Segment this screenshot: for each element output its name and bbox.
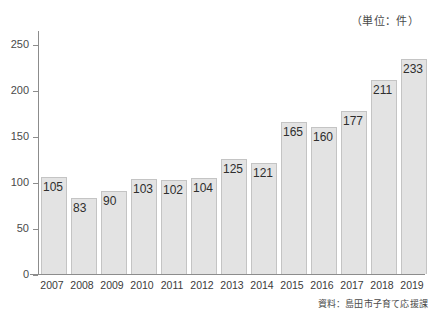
y-tick-label: 250 <box>11 38 29 51</box>
bar-chart-figure: （単位：件） 050100150200250 10583901031021041… <box>0 0 435 316</box>
bar-column: 233 <box>401 30 427 274</box>
bar-value-label: 90 <box>103 195 116 208</box>
bars-layer: 1058390103102104125121165160177211233 <box>38 31 428 275</box>
x-tick-label: 2011 <box>157 278 187 292</box>
bar <box>281 122 307 274</box>
x-tick-label: 2015 <box>277 278 307 292</box>
x-tick-label: 2012 <box>187 278 217 292</box>
bar-value-label: 103 <box>133 183 153 196</box>
y-tick-label: 50 <box>17 222 29 235</box>
x-tick-label: 2018 <box>367 278 397 292</box>
plot-area: 050100150200250 105839010310210412512116… <box>38 31 428 275</box>
bar-column: 160 <box>311 30 337 274</box>
bar-value-label: 160 <box>313 131 333 144</box>
bar-value-label: 102 <box>163 184 183 197</box>
unit-note: （単位：件） <box>351 12 419 28</box>
bar-column: 102 <box>161 30 187 274</box>
x-tick-label: 2013 <box>217 278 247 292</box>
x-tick-label: 2016 <box>307 278 337 292</box>
bar-value-label: 125 <box>223 163 243 176</box>
x-tick-label: 2007 <box>37 278 67 292</box>
y-tick-label: 100 <box>11 176 29 189</box>
y-tick-label: 0 <box>23 268 29 281</box>
x-tick-label: 2017 <box>337 278 367 292</box>
bar-column: 121 <box>251 30 277 274</box>
x-tick-label: 2019 <box>397 278 427 292</box>
bar-value-label: 165 <box>283 126 303 139</box>
bar-column: 165 <box>281 30 307 274</box>
y-tick: 0 <box>33 275 38 276</box>
source-note: 資料：島田市子育て応援課 <box>318 297 428 310</box>
y-tick-label: 200 <box>11 84 29 97</box>
bar-column: 177 <box>341 30 367 274</box>
x-tick-label: 2014 <box>247 278 277 292</box>
bar <box>371 80 397 274</box>
bar-column: 211 <box>371 30 397 274</box>
x-axis-labels: 2007200820092010201120122013201420152016… <box>38 278 428 294</box>
bar-value-label: 105 <box>43 181 63 194</box>
bar-column: 125 <box>221 30 247 274</box>
bar <box>311 127 337 274</box>
bar-column: 83 <box>71 30 97 274</box>
bar-value-label: 177 <box>343 115 363 128</box>
bar-value-label: 121 <box>253 167 273 180</box>
y-tick-label: 150 <box>11 130 29 143</box>
bar-value-label: 104 <box>193 182 213 195</box>
bar-column: 104 <box>191 30 217 274</box>
bar-value-label: 211 <box>373 84 392 97</box>
bar-column: 105 <box>41 30 67 274</box>
x-tick-label: 2010 <box>127 278 157 292</box>
bar <box>401 59 427 274</box>
bar <box>221 159 247 274</box>
bar-value-label: 233 <box>403 63 423 76</box>
bar <box>341 111 367 274</box>
x-tick-label: 2009 <box>97 278 127 292</box>
bar-value-label: 83 <box>73 202 86 215</box>
x-tick-label: 2008 <box>67 278 97 292</box>
bar-column: 90 <box>101 30 127 274</box>
bar-column: 103 <box>131 30 157 274</box>
